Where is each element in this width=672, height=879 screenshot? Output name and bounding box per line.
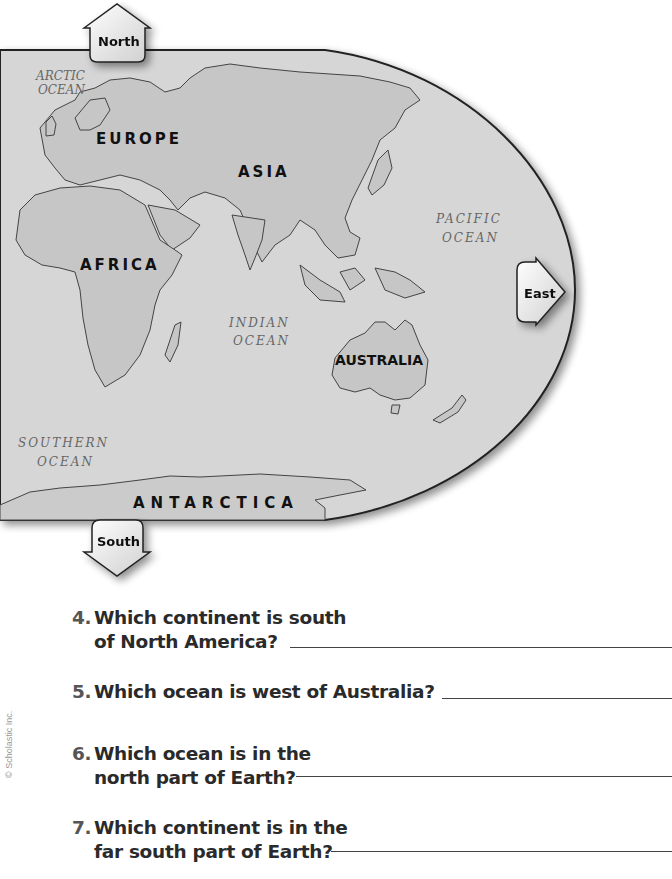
label-australia: AUSTRALIA bbox=[335, 352, 423, 368]
south-label: South bbox=[97, 534, 140, 549]
label-arctic-ocean-1: ARCTIC bbox=[35, 69, 85, 83]
answer-line-5[interactable] bbox=[442, 698, 672, 699]
question-number: 5. bbox=[72, 680, 94, 704]
tasmania bbox=[391, 405, 400, 414]
label-indian-ocean-2: OCEAN bbox=[233, 334, 290, 348]
label-antarctica: ANTARCTICA bbox=[133, 494, 299, 512]
label-arctic-ocean-2: OCEAN bbox=[38, 83, 85, 97]
label-pacific-ocean-1: PACIFIC bbox=[435, 212, 502, 226]
question-text-line1: Which ocean is west of Australia? bbox=[94, 681, 435, 702]
copyright-notice: © Scholastic Inc. bbox=[4, 711, 14, 778]
north-label: North bbox=[98, 34, 140, 49]
world-map: EUROPE ASIA AFRICA AUSTRALIA ANTARCTICA … bbox=[0, 0, 672, 590]
question-5: 5.Which ocean is west of Australia? bbox=[72, 680, 435, 704]
question-number: 6. bbox=[72, 742, 94, 766]
answer-line-6[interactable] bbox=[296, 776, 672, 777]
label-indian-ocean-1: INDIAN bbox=[228, 316, 290, 330]
label-southern-ocean-2: OCEAN bbox=[37, 455, 94, 469]
label-europe: EUROPE bbox=[96, 130, 182, 148]
question-text-line2: of North America? bbox=[72, 630, 346, 654]
compass-north-arrow: North bbox=[84, 4, 150, 62]
answer-line-7[interactable] bbox=[331, 851, 672, 852]
question-text-line1: Which continent is in the bbox=[94, 817, 348, 838]
question-6: 6.Which ocean is in the north part of Ea… bbox=[72, 742, 311, 790]
east-label: East bbox=[524, 286, 556, 301]
answer-line-4[interactable] bbox=[290, 647, 672, 648]
label-africa: AFRICA bbox=[80, 256, 160, 274]
question-7: 7.Which continent is in the far south pa… bbox=[72, 816, 348, 864]
label-pacific-ocean-2: OCEAN bbox=[442, 231, 499, 245]
question-text-line2: north part of Earth? bbox=[72, 766, 311, 790]
question-number: 7. bbox=[72, 816, 94, 840]
question-text-line1: Which continent is south bbox=[94, 607, 346, 628]
label-asia: ASIA bbox=[238, 163, 290, 181]
label-southern-ocean-1: SOUTHERN bbox=[18, 436, 109, 450]
question-text-line2: far south part of Earth? bbox=[72, 840, 348, 864]
question-text-line1: Which ocean is in the bbox=[94, 743, 311, 764]
compass-south-arrow: South bbox=[84, 520, 150, 576]
question-number: 4. bbox=[72, 606, 94, 630]
